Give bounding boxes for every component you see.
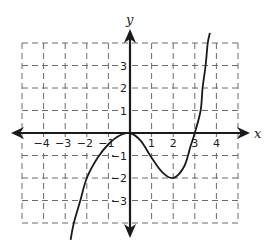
y-tick-label: 2	[120, 82, 127, 95]
x-tick-label: −1	[98, 137, 114, 150]
y-tick-label: 3	[120, 60, 127, 73]
y-tick-label: −3	[111, 195, 127, 208]
x-tick-label: 2	[170, 137, 177, 150]
x-axis-label: x	[254, 126, 262, 141]
y-tick-label: 1	[120, 105, 127, 118]
x-tick-label: 1	[148, 137, 155, 150]
y-tick-label: −1	[111, 150, 127, 163]
y-tick-label: −2	[111, 172, 127, 185]
x-tick-label: −3	[55, 137, 71, 150]
y-axis-label: y	[125, 12, 134, 27]
x-tick-label: −4	[33, 137, 49, 150]
x-tick-label: −2	[77, 137, 93, 150]
cubic-function-graph: −4−3−2−11234 321−1−2−3 x y	[0, 0, 275, 245]
x-tick-label: 4	[213, 137, 220, 150]
